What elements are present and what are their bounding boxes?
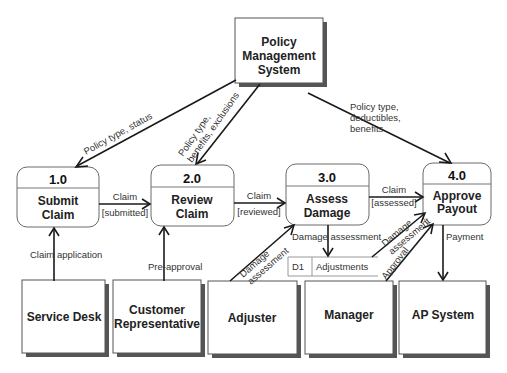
process-number: 2.0 bbox=[183, 171, 201, 186]
entity-label: AP System bbox=[412, 308, 474, 322]
entity-label: Policy bbox=[261, 35, 297, 49]
process-1-submit-claim: 1.0 Submit Claim bbox=[17, 167, 99, 227]
entity-label: Service Desk bbox=[27, 310, 102, 324]
flow-label: benefits bbox=[350, 123, 384, 134]
process-name: Damage bbox=[304, 206, 351, 220]
data-flow-diagram: Policy Management System 1.0 Submit Clai… bbox=[0, 0, 507, 373]
data-store-d1-adjustments: D1 Adjustments bbox=[288, 257, 378, 276]
process-name: Approve bbox=[433, 189, 482, 203]
flow-label: [assessed] bbox=[371, 197, 416, 208]
flow-label: Claim bbox=[382, 184, 406, 195]
entity-ap-system: AP System bbox=[399, 281, 490, 358]
flow-label: Claim bbox=[113, 191, 137, 202]
entity-label: Adjuster bbox=[228, 311, 277, 325]
flow-label: Payment bbox=[446, 231, 484, 242]
flow-service-desk-to-p1: Claim application bbox=[30, 228, 102, 281]
process-number: 4.0 bbox=[448, 168, 466, 183]
flow-p1-to-p2: Claim [submitted] bbox=[99, 191, 150, 218]
data-store-code: D1 bbox=[292, 261, 304, 272]
data-store-name: Adjustments bbox=[316, 261, 369, 272]
flow-label: [reviewed] bbox=[237, 206, 280, 217]
flow-adjuster-to-p3: Damage assessment bbox=[230, 225, 294, 287]
process-3-assess-damage: 3.0 Assess Damage bbox=[286, 164, 369, 225]
flow-label: Policy type, status bbox=[82, 110, 155, 157]
flow-p4-to-ap-system: Payment bbox=[438, 225, 484, 280]
flow-label: Claim application bbox=[30, 249, 102, 260]
entity-label: System bbox=[258, 63, 301, 77]
process-number: 1.0 bbox=[49, 172, 67, 187]
entity-label: Customer bbox=[129, 303, 185, 317]
process-name: Assess bbox=[306, 192, 348, 206]
process-name: Submit bbox=[38, 194, 79, 208]
entity-service-desk: Service Desk bbox=[22, 280, 109, 357]
entity-label: Representative bbox=[114, 317, 200, 331]
flow-pms-to-p2: Policy type, benefits, exclusions bbox=[176, 84, 260, 164]
process-number: 3.0 bbox=[318, 170, 336, 185]
process-name: Payout bbox=[437, 202, 477, 216]
process-name: Claim bbox=[42, 208, 75, 222]
entity-policy-management-system: Policy Management System bbox=[235, 18, 327, 87]
entity-label: Management bbox=[242, 49, 315, 63]
flow-p2-to-p3: Claim [reviewed] bbox=[234, 190, 285, 217]
flow-pms-to-p4: Policy type, deductibles, benefits bbox=[308, 93, 451, 163]
flow-label: deductibles, bbox=[350, 112, 401, 123]
flow-p3-to-p4: Claim [assessed] bbox=[369, 184, 423, 208]
entity-label: Manager bbox=[324, 308, 374, 322]
flow-label: Policy type, bbox=[350, 101, 399, 112]
entity-manager: Manager bbox=[305, 281, 397, 358]
process-4-approve-payout: 4.0 Approve Payout bbox=[423, 163, 491, 225]
flow-label: Claim bbox=[247, 190, 271, 201]
flow-customer-rep-to-p2: Pre-approval bbox=[148, 227, 202, 281]
flow-label: Damage assessment bbox=[292, 231, 382, 242]
process-name: Review bbox=[171, 193, 213, 207]
process-name: Claim bbox=[176, 207, 209, 221]
flow-label: [submitted] bbox=[102, 207, 148, 218]
entity-customer-representative: Customer Representative bbox=[113, 280, 205, 357]
process-2-review-claim: 2.0 Review Claim bbox=[151, 165, 234, 226]
flow-p3-to-d1: Damage assessment bbox=[292, 225, 382, 256]
entity-adjuster: Adjuster bbox=[208, 281, 301, 358]
flow-label: Pre-approval bbox=[148, 261, 202, 272]
